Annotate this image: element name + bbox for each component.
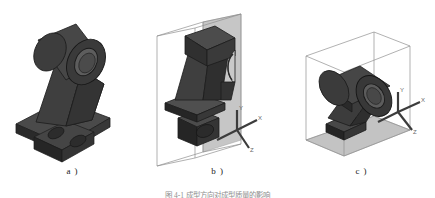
axis-label-z: Z [413,129,417,135]
figure-container: a ) [0,0,435,198]
panel-a: a ) [0,0,145,198]
axis-x-line [398,102,420,112]
panel-b: Y X Z b ) [145,0,290,198]
axis-label-x: X [421,97,425,103]
axis-label-y: Y [239,105,243,111]
axis-label-y: Y [400,87,404,93]
axis-label-z: Z [250,147,254,153]
panel-c-label: c ) [288,166,435,176]
figure-caption: 图 4-1 成型方向对成型质量的影响 [0,189,435,198]
panel-b-label: b ) [145,166,290,176]
panel-c: Y X Z c ) [288,0,435,198]
axis-label-x: X [258,115,262,121]
panel-a-label: a ) [0,166,145,176]
